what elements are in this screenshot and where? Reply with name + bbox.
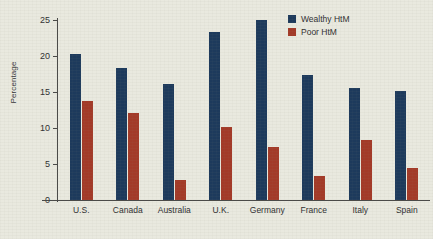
bar (256, 20, 267, 200)
legend-label: Poor HtM (301, 27, 337, 37)
x-axis-tick-label: Spain (396, 205, 418, 215)
bar (395, 91, 406, 200)
y-axis-tick-label: 15 (40, 87, 50, 97)
bar-group (116, 20, 139, 200)
x-axis-tick-label: Italy (352, 205, 368, 215)
bar-group (302, 20, 325, 200)
legend-swatch-icon (288, 28, 296, 36)
y-axis-tick-label: 5 (45, 159, 50, 169)
bar (268, 147, 279, 200)
bar (128, 113, 139, 200)
bar (209, 32, 220, 200)
legend-swatch-icon (288, 15, 296, 23)
bar (116, 68, 127, 200)
bar (349, 88, 360, 200)
bar-group (70, 20, 93, 200)
bar (82, 101, 93, 200)
bar (314, 176, 325, 200)
bar-chart-figure: Percentage 0510152025 Wealthy HtMPoor Ht… (0, 0, 433, 239)
y-axis-tick-group: 0510152025 (0, 0, 58, 220)
plot-area (58, 20, 430, 200)
bar (302, 75, 313, 200)
bar-group (209, 20, 232, 200)
bar-group (395, 20, 418, 200)
x-axis-tick-label: France (301, 205, 327, 215)
x-axis-tick-label: U.K. (212, 205, 229, 215)
bar (407, 168, 418, 200)
x-axis-tick-label: Germany (250, 205, 285, 215)
y-axis-tick-label: 10 (40, 123, 50, 133)
x-axis-tick-label: U.S. (73, 205, 90, 215)
bar (70, 54, 81, 200)
x-axis-tick-label: Canada (113, 205, 143, 215)
chart-legend: Wealthy HtMPoor HtM (288, 14, 350, 37)
y-axis-tick-label: 25 (40, 15, 50, 25)
bar (175, 180, 186, 200)
bar (163, 84, 174, 200)
bar-group (256, 20, 279, 200)
x-axis-line (42, 200, 430, 201)
legend-item: Poor HtM (288, 27, 350, 37)
bar-group (349, 20, 372, 200)
y-axis-tick-label: 20 (40, 51, 50, 61)
legend-label: Wealthy HtM (301, 14, 350, 24)
bar (221, 127, 232, 200)
x-axis-tick-label: Australia (158, 205, 191, 215)
legend-item: Wealthy HtM (288, 14, 350, 24)
bar (361, 140, 372, 200)
bar-group (163, 20, 186, 200)
